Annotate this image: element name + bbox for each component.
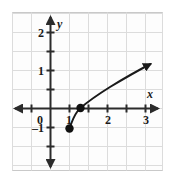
x-tick-label-3: 3 <box>143 113 149 127</box>
y-axis-label: y <box>55 17 63 31</box>
graph-figure: x y 0 1 2 3 2 1 –1 <box>0 0 175 183</box>
y-tick-label-neg1: –1 <box>31 121 44 135</box>
coordinate-plane: x y 0 1 2 3 2 1 –1 <box>0 0 175 183</box>
x-axis-label: x <box>146 87 153 101</box>
y-tick-label-2: 2 <box>38 26 44 40</box>
x-tick-label-2: 2 <box>105 113 111 127</box>
x-intercept-point <box>76 104 84 112</box>
y-tick-label-1: 1 <box>38 64 44 78</box>
lower-endpoint-point <box>65 124 73 132</box>
